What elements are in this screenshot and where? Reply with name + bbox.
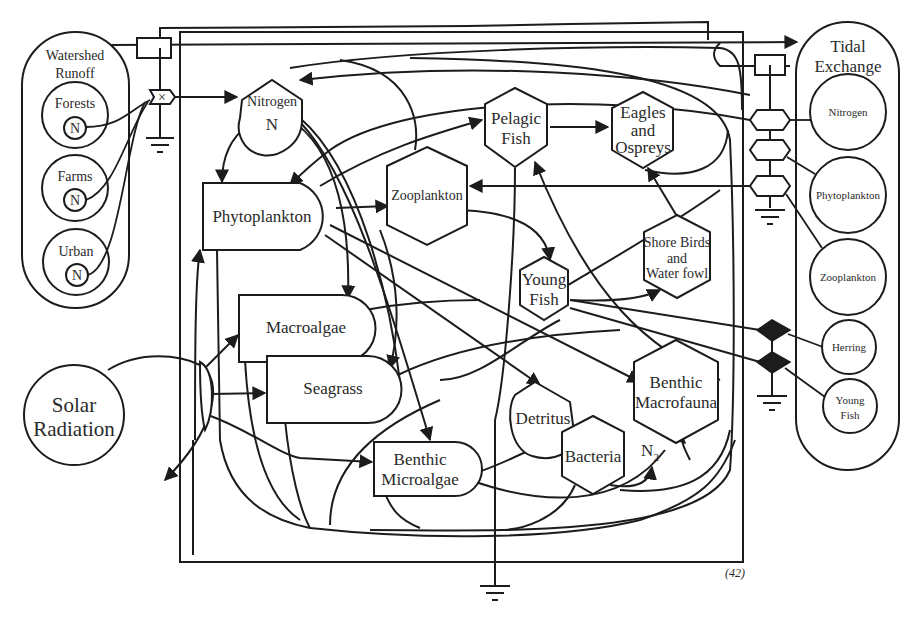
tidal-young-fish-label-1: Young: [836, 394, 865, 406]
young-fish-switch-icon: [757, 352, 790, 373]
young-fish-label-2: Fish: [529, 290, 559, 309]
forests-n-symbol: N: [70, 121, 80, 136]
page-note: (42): [725, 566, 745, 580]
n2-label: N2: [641, 441, 659, 463]
ground-icon-bottom: [480, 586, 510, 600]
ground-icon-tidal-lower: [757, 396, 787, 410]
watershed-label-2: Runoff: [55, 66, 95, 81]
shore-birds-label-2: and: [667, 251, 687, 266]
macroalgae-label: Macroalgae: [266, 318, 346, 337]
forests-label: Forests: [55, 96, 95, 111]
zooplankton-node[interactable]: Zooplankton: [387, 147, 467, 245]
estuary-energy-diagram: Watershed Runoff Forests N Farms N Urban…: [0, 0, 922, 619]
bacteria-node[interactable]: Bacteria: [562, 416, 624, 494]
ground-icon-left: [146, 138, 174, 152]
nitrogen-node[interactable]: Nitrogen N: [239, 80, 302, 155]
tidal-nitrogen-label: Nitrogen: [828, 106, 868, 118]
pelagic-fish-label-2: Fish: [501, 129, 531, 148]
tidal-young-fish-label-2: Fish: [841, 409, 860, 421]
benthic-macrofauna-label-2: Macrofauna: [635, 393, 718, 412]
shore-birds-node[interactable]: Shore Birds and Water fowl: [644, 215, 711, 298]
young-fish-node[interactable]: Young Fish: [520, 257, 568, 320]
macroalgae-node[interactable]: Macroalgae: [239, 295, 376, 362]
phytoplankton-label: Phytoplankton: [212, 207, 312, 226]
phytoplankton-node[interactable]: Phytoplankton: [203, 183, 323, 250]
runoff-storage-tank: [137, 38, 171, 58]
benthic-microalgae-label-2: Microalgae: [381, 470, 458, 489]
tidal-switch-zooplankton: [750, 176, 790, 196]
pelagic-fish-label-1: Pelagic: [491, 109, 541, 128]
seagrass-node[interactable]: Seagrass: [267, 356, 401, 423]
herring-switch-icon: [757, 320, 790, 341]
nitrogen-symbol: N: [266, 115, 278, 134]
eagles-label-1: Eagles: [620, 103, 665, 122]
nitrogen-label: Nitrogen: [247, 94, 297, 109]
n2-sink: N2: [641, 441, 659, 463]
benthic-microalgae-node[interactable]: Benthic Microalgae: [374, 442, 482, 496]
tidal-label-1: Tidal: [830, 37, 866, 56]
eagles-label-3: Ospreys: [615, 138, 671, 157]
zooplankton-label: Zooplankton: [391, 188, 463, 203]
ground-icon-tidal-upper: [755, 210, 785, 224]
eagles-ospreys-node[interactable]: Eagles and Ospreys: [612, 92, 673, 168]
tidal-switch-nitrogen: [750, 110, 790, 130]
multiplier-x: ×: [158, 90, 166, 105]
young-fish-label-1: Young: [522, 270, 567, 289]
benthic-macrofauna-label-1: Benthic: [650, 373, 703, 392]
shore-birds-label-1: Shore Birds: [644, 235, 711, 250]
benthic-macrofauna-node[interactable]: Benthic Macrofauna: [634, 340, 718, 443]
bacteria-label: Bacteria: [565, 447, 622, 466]
watershed-label-1: Watershed: [46, 48, 105, 63]
tidal-young-fish-source[interactable]: [823, 379, 877, 433]
benthic-microalgae-label-1: Benthic: [394, 450, 447, 469]
tidal-exchange-group: Tidal Exchange Nitrogen Phytoplankton Zo…: [750, 22, 899, 470]
detritus-label: Detritus: [516, 409, 571, 428]
tidal-herring-label: Herring: [832, 341, 867, 353]
tidal-zooplankton-label: Zooplankton: [820, 271, 877, 283]
farms-label: Farms: [58, 169, 93, 184]
seagrass-label: Seagrass: [303, 379, 362, 398]
solar-radiation-source[interactable]: Solar Radiation: [24, 362, 212, 465]
tidal-switch-phytoplankton: [750, 140, 790, 160]
urban-n-symbol: N: [72, 268, 82, 283]
tidal-phytoplankton-label: Phytoplankton: [816, 189, 881, 201]
watershed-runoff-group: Watershed Runoff Forests N Farms N Urban…: [22, 32, 237, 308]
farms-n-symbol: N: [70, 193, 80, 208]
pelagic-fish-node[interactable]: Pelagic Fish: [485, 88, 547, 167]
urban-label: Urban: [59, 244, 94, 259]
solar-label-1: Solar: [52, 393, 96, 417]
solar-label-2: Radiation: [33, 417, 115, 441]
shore-birds-label-3: Water fowl: [646, 266, 708, 281]
